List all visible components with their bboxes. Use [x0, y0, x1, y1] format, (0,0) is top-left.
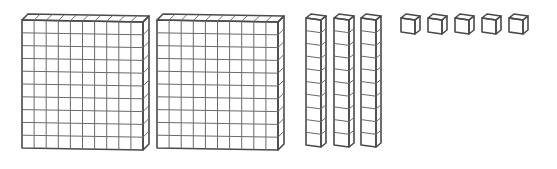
one-unit-4	[482, 14, 501, 34]
front-face	[455, 18, 469, 34]
hundreds-flats-group	[22, 14, 284, 150]
one-unit-5	[509, 14, 528, 34]
tens-rods-group	[306, 14, 381, 147]
hundred-flat-1	[22, 14, 149, 150]
front-face	[428, 18, 442, 34]
one-unit-1	[401, 14, 420, 34]
ten-rod-3	[361, 14, 381, 147]
ten-rod-2	[334, 14, 354, 147]
hundred-flat-2	[157, 14, 284, 150]
base-ten-blocks-figure	[0, 0, 557, 169]
front-face	[401, 18, 415, 34]
front-face	[482, 18, 496, 34]
ten-rod-1	[306, 14, 326, 147]
one-unit-3	[455, 14, 474, 34]
one-unit-2	[428, 14, 447, 34]
front-face	[509, 18, 523, 34]
ones-units-group	[401, 14, 528, 34]
